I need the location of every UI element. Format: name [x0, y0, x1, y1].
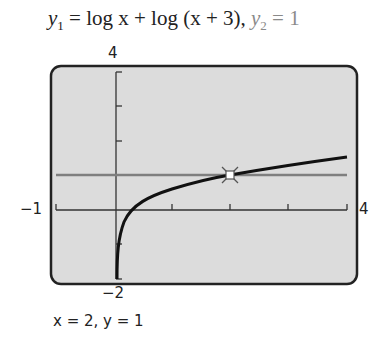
graph-screen — [0, 0, 390, 349]
intersection-result: x = 2, y = 1 — [53, 312, 144, 330]
